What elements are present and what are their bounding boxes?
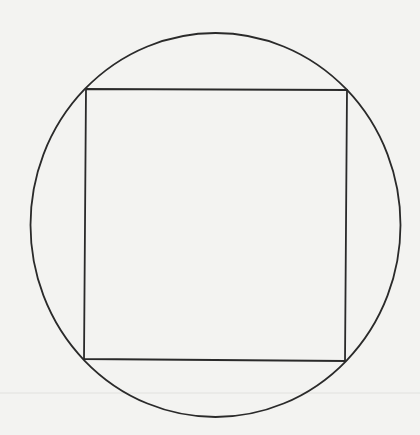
diagram-canvas	[0, 0, 420, 435]
inscribed-square	[84, 89, 347, 361]
inscribed-square-diagram	[0, 0, 420, 435]
